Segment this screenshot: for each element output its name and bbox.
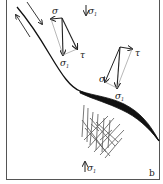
top-sigma1-annotation: σ 1	[86, 5, 97, 17]
svg-text:τ: τ	[135, 48, 141, 58]
svg-text:1: 1	[94, 11, 97, 17]
stress-diagram: σ 1 σ σ 1 τ σ σ 1 τ σ	[0, 0, 163, 184]
stress-vector-triangle-2: σ σ 1 τ	[99, 47, 141, 102]
svg-text:τ: τ	[80, 50, 86, 60]
svg-text:1: 1	[93, 168, 96, 174]
stress-vector-triangle-1: σ σ 1 τ	[51, 6, 86, 69]
shear-sense-arrows	[16, 2, 42, 37]
fracture-network	[82, 105, 124, 158]
svg-text:1: 1	[66, 63, 69, 69]
svg-text:1: 1	[121, 96, 124, 102]
svg-text:σ: σ	[52, 6, 59, 16]
panel-label: b	[149, 168, 155, 178]
svg-text:σ: σ	[99, 74, 106, 84]
bottom-sigma1-annotation: σ 1	[85, 162, 96, 174]
